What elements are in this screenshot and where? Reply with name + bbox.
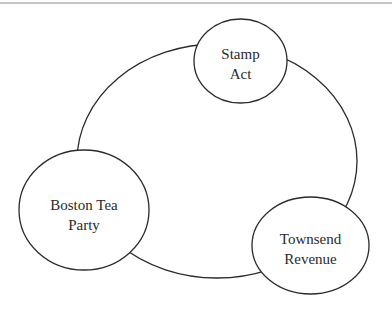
- node-townsend-revenue-label-line1: Townsend: [280, 231, 342, 247]
- node-boston-tea-party: Boston Tea Party: [19, 150, 149, 270]
- node-townsend-revenue-label-line2: Revenue: [284, 251, 337, 267]
- node-stamp-act-label-line1: Stamp: [221, 46, 259, 62]
- cycle-diagram: Stamp Act Boston Tea Party Townsend Reve…: [0, 0, 392, 312]
- node-boston-tea-party-label-line1: Boston Tea: [50, 197, 118, 213]
- node-stamp-act-label-line2: Act: [230, 66, 252, 82]
- node-stamp-act: Stamp Act: [194, 19, 287, 103]
- node-townsend-revenue: Townsend Revenue: [252, 197, 369, 294]
- node-boston-tea-party-label-line2: Party: [68, 217, 100, 233]
